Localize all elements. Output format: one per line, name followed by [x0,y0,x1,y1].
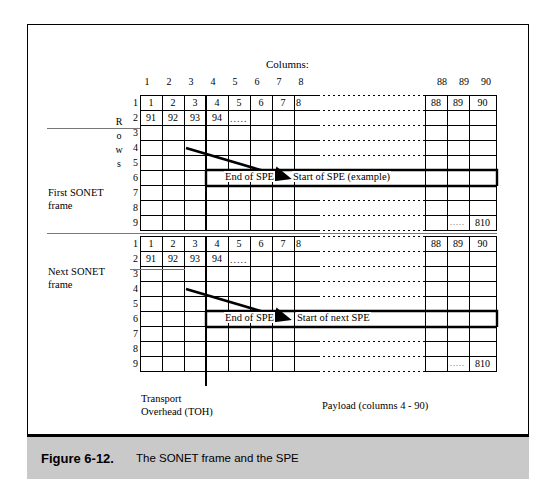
frame1-row-number-1: 1 [124,97,138,108]
frame1-row-number-2: 2 [124,112,138,123]
frame2-row1-cell-8: 8 [296,238,310,249]
frame1-row1-cell-2: 2 [162,97,184,108]
figure-caption-number: Figure 6-12. [41,451,114,466]
figure-root: Columns: 1 2 3 4 5 6 7 8 88 89 90 R o w … [0,0,556,503]
toh-label-line1: Transport [141,392,181,405]
frame2-row2-cell-1: 91 [140,253,162,264]
frame1-start-of-spe-label: Start of SPE (example) [292,171,391,182]
frame1-row2-cell-4: 94 [206,112,228,123]
frame1-row1-cell-5: 5 [228,97,250,108]
frame2-row1-cell-3: 3 [184,238,206,249]
frame1-row-number-4: 4 [124,142,138,153]
frame1-row-number-5: 5 [124,157,138,168]
frame1-row1-cell-1: 1 [140,97,162,108]
payload-label: Payload (columns 4 - 90) [322,399,428,412]
frame2-row-number-5: 5 [124,298,138,309]
frame2-row1-cell-6: 6 [250,238,272,249]
frame2-end-of-spe-label: End of SPE [224,312,275,323]
column-number-90: 90 [476,76,496,87]
first-sonet-frame-label-line1: First SONET [48,186,104,199]
column-number-6: 6 [247,76,267,87]
frame1-row1-cell-6: 6 [250,97,272,108]
frame2-row2-cell-2: 92 [162,253,184,264]
figure-caption-bar: Figure 6-12. The SONET frame and the SPE [27,434,529,479]
frame2-start-of-spe-label: Start of next SPE [296,312,371,323]
frame2-row-number-8: 8 [124,343,138,354]
frame1-row-number-9: 9 [124,217,138,228]
frame2-row1-cell-7: 7 [272,238,294,249]
frame2-row-number-3: 3 [124,268,138,279]
frame1-row1-cell-8: 8 [296,97,310,108]
frame2-row2-cell-4: 94 [206,253,228,264]
frame1-row2-cell-2: 92 [162,112,184,123]
frame1-row1-cell-89: 89 [447,97,469,108]
frame2-row-number-1: 1 [124,238,138,249]
toh-label-line2: Overhead (TOH) [141,405,213,418]
frame2-row1-cell-2: 2 [162,238,184,249]
frame1-row-number-8: 8 [124,202,138,213]
frame1-row2-cell-1: 91 [140,112,162,123]
frame1-row-number-3: 3 [124,127,138,138]
next-sonet-frame-label-line1: Next SONET [48,265,105,278]
frame2-row-number-7: 7 [124,328,138,339]
frame2-row2-dots: ..... [230,254,248,265]
frame2-row9-cell-810: 810 [469,358,496,369]
frame2-row1-cell-90: 90 [469,238,496,249]
frame1-row-number-7: 7 [124,187,138,198]
frame1-row9-cell-810: 810 [469,217,496,228]
frame2-row-number-6: 6 [124,313,138,324]
frame1-row2-cell-3: 93 [184,112,206,123]
frame2-row1-cell-89: 89 [447,238,469,249]
frame2-row1-cell-88: 88 [425,238,447,249]
frame1-row1-cell-4: 4 [206,97,228,108]
frame1-row1-cell-3: 3 [184,97,206,108]
frame2-row1-cell-5: 5 [228,238,250,249]
column-number-2: 2 [159,76,179,87]
frame2-row1-cell-4: 4 [206,238,228,249]
frame1-row1-cell-90: 90 [469,97,496,108]
column-number-5: 5 [225,76,245,87]
frame1-row1-cell-7: 7 [272,97,294,108]
column-number-7: 7 [269,76,289,87]
first-sonet-frame-label-line2: frame [48,199,72,212]
column-number-88: 88 [432,76,452,87]
frame2-row-number-2: 2 [124,253,138,264]
frame2-row9-dots: ..... [450,359,465,368]
figure-caption-text: The SONET frame and the SPE [136,452,299,464]
column-number-3: 3 [181,76,201,87]
figure-border-box [27,24,529,479]
frame1-row-number-6: 6 [124,172,138,183]
frame2-row1-cell-1: 1 [140,238,162,249]
frame1-row9-dots: ..... [450,218,465,227]
frame1-end-of-spe-label: End of SPE [224,171,275,182]
columns-header-label: Columns: [266,58,309,72]
column-number-8: 8 [291,76,311,87]
column-number-1: 1 [137,76,157,87]
next-sonet-frame-label-line2: frame [48,278,72,291]
frame2-row-number-9: 9 [124,358,138,369]
column-number-4: 4 [203,76,223,87]
frame1-row2-dots: ..... [230,113,248,124]
frame2-row2-cell-3: 93 [184,253,206,264]
column-number-89: 89 [454,76,474,87]
frame1-row1-cell-88: 88 [425,97,447,108]
frame2-row-number-4: 4 [124,283,138,294]
